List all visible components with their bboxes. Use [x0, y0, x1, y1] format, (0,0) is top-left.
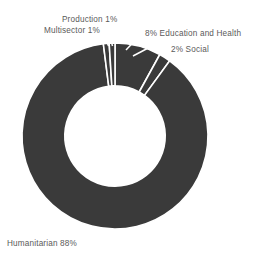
slice-label-multisector: Multisector 1%: [44, 25, 100, 36]
donut-chart-figure: Production 1% Multisector 1% 8% Educatio…: [0, 0, 260, 262]
donut-chart-svg: [0, 0, 260, 262]
donut-slice-group: [22, 43, 208, 229]
slice-label-production: Production 1%: [62, 14, 117, 25]
slice-label-education-and-health: 8% Education and Health: [145, 28, 241, 39]
slice-label-social: 2% Social: [171, 44, 209, 55]
slice-label-humanitarian: Humanitarian 88%: [7, 238, 77, 249]
